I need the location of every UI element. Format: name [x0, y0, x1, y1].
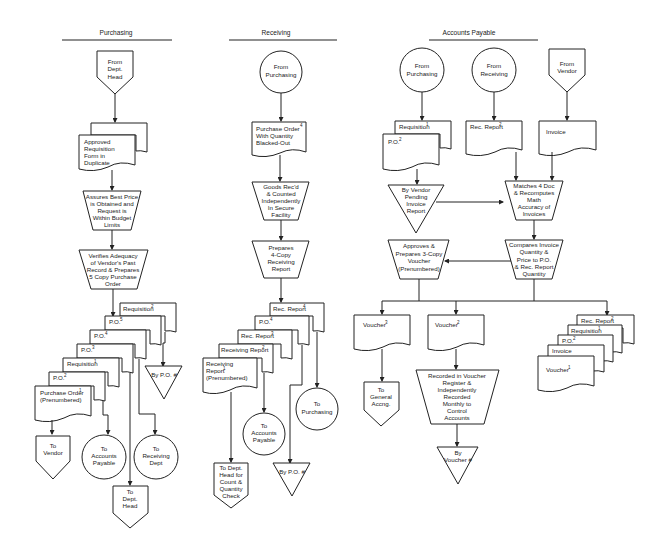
- svg-text:From: From: [274, 63, 288, 70]
- section-header-purchasing: Purchasing: [62, 29, 172, 40]
- svg-text:To Dept.: To Dept.: [219, 464, 242, 471]
- section-header-accounts-payable: Accounts Payable: [429, 29, 538, 40]
- svg-text:Monthly to: Monthly to: [443, 400, 472, 407]
- svg-text:Invoice: Invoice: [546, 128, 566, 135]
- svg-text:Facility: Facility: [271, 211, 291, 218]
- purchasing-to-dept-head-offpage: To Dept. Head: [113, 486, 148, 528]
- receiving-to-ap-connector: To Accounts Payable: [243, 413, 285, 455]
- svg-text:To: To: [153, 445, 160, 452]
- svg-text:Assures Best Price: Assures Best Price: [86, 193, 139, 200]
- svg-text:Receiving: Receiving: [142, 452, 170, 459]
- ap-file-pending-invoice: By Vendor Pending Invoice Report: [388, 185, 444, 233]
- svg-text:(Prenumbered): (Prenumbered): [398, 265, 440, 272]
- svg-text:Receiving: Receiving: [262, 29, 291, 37]
- svg-text:By Vendor: By Vendor: [402, 186, 431, 193]
- svg-text:Accounts Payable: Accounts Payable: [443, 29, 496, 37]
- svg-text:Verifies Adequacy: Verifies Adequacy: [88, 252, 138, 259]
- svg-text:From: From: [108, 58, 122, 65]
- svg-text:By: By: [454, 449, 462, 456]
- ap-process-compare-invoice: Compares Invoice Quantity & Price to P.O…: [505, 240, 563, 279]
- svg-text:Goods Rec'd: Goods Rec'd: [263, 183, 299, 190]
- svg-text:Payable: Payable: [93, 459, 116, 466]
- svg-text:Accuracy of: Accuracy of: [518, 203, 551, 210]
- receiving-po-blacked-out-doc: Purchase Order4 With Quantity Blacked-Ou…: [252, 122, 306, 157]
- ap-doc-invoice: Invoice: [539, 121, 596, 156]
- svg-text:Count &: Count &: [220, 478, 243, 485]
- svg-text:Head: Head: [123, 502, 138, 509]
- svg-text:Accng.: Accng.: [372, 400, 391, 407]
- svg-text:To: To: [127, 488, 134, 495]
- svg-text:Approved: Approved: [84, 138, 111, 145]
- svg-text:Prepares 3-Copy: Prepares 3-Copy: [396, 250, 444, 257]
- svg-text:Head for: Head for: [219, 471, 243, 478]
- svg-text:Recorded in Voucher: Recorded in Voucher: [428, 372, 486, 379]
- ap-from-purchasing-connector: From Purchasing: [400, 48, 444, 92]
- flowchart-canvas: Purchasing Receiving Accounts Payable Fr…: [0, 0, 668, 552]
- svg-text:With Quantity: With Quantity: [256, 132, 294, 139]
- receiving-process-count-goods: Goods Rec'd & Counted Independently In S…: [252, 182, 309, 220]
- svg-text:Compares Invoice: Compares Invoice: [509, 241, 559, 248]
- svg-text:& Counted: & Counted: [266, 190, 296, 197]
- receiving-start-connector: From Purchasing: [260, 51, 302, 93]
- svg-text:From: From: [415, 62, 429, 69]
- svg-text:To: To: [261, 422, 268, 429]
- purchasing-requisition-doc: Approved Requisition Form in Duplicate: [79, 123, 147, 171]
- receiving-to-dept-head-offpage: To Dept. Head for Count & Quantity Check: [214, 463, 248, 508]
- svg-text:Invoice: Invoice: [406, 200, 426, 207]
- svg-text:Receiving: Receiving: [206, 360, 234, 367]
- svg-text:Rec. Report: Rec. Report: [581, 317, 614, 324]
- ap-doc-po-2: P.O.2: [383, 134, 439, 171]
- ap-doc-rec-report-2: Rec. Report2: [466, 121, 522, 156]
- svg-text:Vendor: Vendor: [557, 67, 577, 74]
- svg-text:Rec. Report: Rec. Report: [241, 332, 274, 339]
- svg-text:Independently: Independently: [262, 197, 302, 204]
- svg-text:Accounts: Accounts: [91, 452, 116, 459]
- ap-from-vendor-offpage: From Vendor: [549, 49, 585, 92]
- ap-doc-voucher-3: Voucher3: [354, 315, 410, 351]
- svg-text:Report: Report: [407, 207, 426, 214]
- svg-text:Voucher: Voucher: [546, 366, 569, 373]
- purchasing-to-vendor-offpage: To Vendor: [36, 436, 70, 479]
- svg-text:Vendor: Vendor: [43, 449, 63, 456]
- svg-text:Dept.: Dept.: [123, 495, 138, 502]
- svg-text:Invoices: Invoices: [523, 210, 546, 217]
- stack-doc-receiving-report-1: Receiving Report1 (Prenumbered): [203, 358, 257, 394]
- svg-text:Approves &: Approves &: [403, 242, 436, 249]
- svg-text:Pending: Pending: [405, 193, 428, 200]
- svg-text:From: From: [560, 60, 574, 67]
- ap-process-record-voucher-register: Recorded in Voucher Register & Independe…: [416, 370, 499, 424]
- svg-text:Voucher: Voucher: [408, 257, 431, 264]
- svg-text:General: General: [370, 393, 392, 400]
- ap-from-receiving-connector: From Receiving: [472, 48, 516, 92]
- svg-text:Quantity &: Quantity &: [520, 248, 550, 255]
- purchasing-file-by-po: By P.O. #: [145, 366, 182, 399]
- svg-text:Limits: Limits: [104, 221, 120, 228]
- svg-text:Check: Check: [222, 492, 240, 499]
- receiving-file-by-po: By P.O. #: [273, 463, 310, 496]
- svg-text:5 Copy Purchase: 5 Copy Purchase: [89, 273, 137, 280]
- svg-text:Record & Prepares: Record & Prepares: [87, 266, 140, 273]
- svg-text:Matches 4 Doc: Matches 4 Doc: [513, 182, 554, 189]
- svg-text:Purchasing: Purchasing: [100, 29, 133, 37]
- svg-text:Blacked-Out: Blacked-Out: [256, 139, 290, 146]
- svg-text:Dept: Dept: [149, 459, 162, 466]
- ap-doc-voucher-2: Voucher2: [428, 315, 484, 351]
- svg-text:& Recomputes: & Recomputes: [514, 189, 555, 196]
- svg-text:Invoice: Invoice: [552, 347, 572, 354]
- svg-text:Accounts: Accounts: [251, 429, 276, 436]
- svg-text:& Rec. Report: & Rec. Report: [515, 263, 554, 270]
- stack-doc-purchase-order-1: Purchase Order1 (Prenumbered): [35, 386, 91, 422]
- svg-text:Rec. Report: Rec. Report: [273, 305, 306, 312]
- ap-voucher-package-stack: Rec. Report2 Requisition1 P.O.2 Invoice …: [538, 315, 634, 392]
- svg-text:(Prenumbered): (Prenumbered): [206, 374, 248, 381]
- ap-process-match-docs: Matches 4 Doc & Recomputes Math Accuracy…: [505, 181, 563, 220]
- svg-text:Form in: Form in: [84, 152, 106, 159]
- svg-text:of Vendor's Past: of Vendor's Past: [91, 259, 136, 266]
- svg-text:Purchasing: Purchasing: [266, 71, 298, 78]
- svg-text:is Obtained and: is Obtained and: [90, 200, 134, 207]
- purchasing-to-receiving-connector: To Receiving Dept: [134, 435, 178, 479]
- svg-text:Voucher: Voucher: [435, 321, 458, 328]
- svg-text:Recorded: Recorded: [444, 393, 471, 400]
- svg-text:4-Copy: 4-Copy: [271, 251, 292, 258]
- svg-text:Control: Control: [447, 407, 467, 414]
